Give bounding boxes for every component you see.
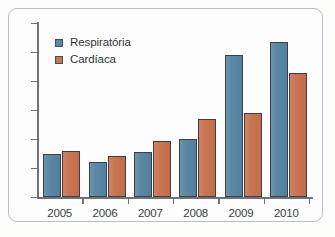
bar-respiratria-2007 <box>134 152 152 197</box>
x-axis-tick <box>82 198 83 204</box>
x-axis-tick-label: 2009 <box>218 208 264 220</box>
x-axis-tick-label: 2006 <box>82 208 128 220</box>
legend-item-label: Cardíaca <box>70 54 116 66</box>
x-axis-tick-label: 2008 <box>173 208 219 220</box>
legend-swatch-icon <box>55 56 63 64</box>
y-axis-labels: 0100200300400500600 <box>9 9 39 237</box>
bar-cardaca-2006 <box>108 156 126 197</box>
x-axis-tick <box>309 198 310 204</box>
bar-respiratria-2010 <box>270 42 288 197</box>
bar-cardaca-2010 <box>289 73 307 197</box>
x-axis-line <box>37 197 313 199</box>
bar-respiratria-2005 <box>43 154 61 197</box>
bar-cardaca-2009 <box>244 113 262 197</box>
bar-cardaca-2008 <box>198 119 216 197</box>
bar-respiratria-2008 <box>179 139 197 197</box>
bar-cardaca-2005 <box>62 151 80 197</box>
x-axis-tick-label: 2010 <box>263 208 309 220</box>
bar-respiratria-2009 <box>225 55 243 197</box>
legend-item: Cardíaca <box>55 52 131 67</box>
x-axis-tick-label: 2007 <box>127 208 173 220</box>
chart-frame: 0100200300400500600 20052006200720082009… <box>8 8 323 222</box>
x-axis-tick <box>218 198 219 204</box>
chart-page: 0100200300400500600 20052006200720082009… <box>0 0 335 237</box>
legend-item-label: Respiratória <box>70 37 131 49</box>
x-axis-tick <box>128 198 129 204</box>
legend-item: Respiratória <box>55 35 131 50</box>
legend-swatch-icon <box>55 39 63 47</box>
bar-respiratria-2006 <box>89 162 107 197</box>
bar-cardaca-2007 <box>153 141 171 197</box>
x-axis-tick <box>264 198 265 204</box>
x-axis-tick-label: 2005 <box>37 208 83 220</box>
x-axis-tick <box>173 198 174 204</box>
chart-legend: RespiratóriaCardíaca <box>55 35 131 69</box>
